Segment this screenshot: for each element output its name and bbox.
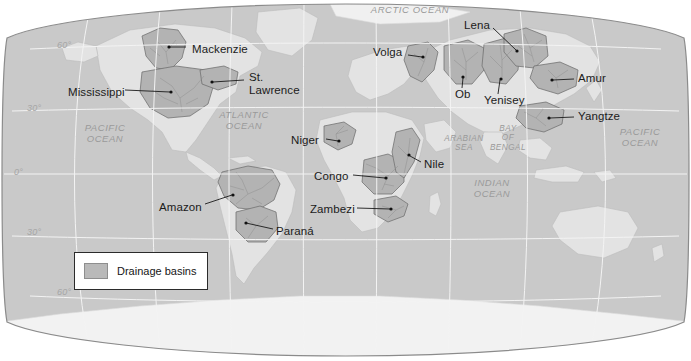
ocean-label-indian: INDIAN OCEAN [456, 178, 528, 200]
basin-label-lena: Lena [464, 19, 490, 31]
basin-label-niger: Niger [291, 134, 319, 146]
basin-label-congo: Congo [314, 170, 348, 182]
lat-label-60n: 60° [57, 40, 71, 50]
basin-label-yenisey: Yenisey [484, 94, 525, 106]
basin-label-yangtze: Yangtze [578, 110, 620, 122]
lat-label-30n: 30° [27, 103, 41, 113]
basin-label-st-lawrence: St. Lawrence [249, 71, 300, 97]
basin-label-parana: Paraná [276, 225, 314, 237]
basin-label-nile: Nile [424, 158, 444, 170]
basin-label-mississippi: Mississippi [68, 86, 125, 98]
ocean-label-pacific-west: PACIFIC OCEAN [66, 123, 144, 145]
basin-label-volga: Volga [373, 46, 402, 58]
world-drainage-basins-map: Mackenzie Mississippi St. Lawrence Amazo… [0, 0, 691, 361]
basin-label-mackenzie: Mackenzie [192, 43, 248, 55]
lat-label-30s: 30° [27, 227, 41, 237]
ocean-label-pacific-east: PACIFIC OCEAN [601, 127, 679, 149]
basin-label-ob: Ob [455, 88, 471, 100]
lat-label-0: 0° [14, 167, 23, 177]
ocean-label-arctic: ARCTIC OCEAN [355, 5, 465, 16]
legend-label-drainage-basins: Drainage basins [117, 265, 197, 277]
ocean-label-bay-of-bengal: BAY OF BENGAL [482, 124, 534, 152]
legend-row-drainage-basins: Drainage basins [75, 253, 207, 289]
legend-swatch-drainage-basins [84, 263, 108, 279]
basin-label-amazon: Amazon [159, 201, 202, 213]
ocean-label-atlantic: ATLANTIC OCEAN [205, 110, 283, 132]
map-legend: Drainage basins [74, 252, 208, 290]
basin-label-zambezi: Zambezi [310, 203, 355, 215]
basin-label-amur: Amur [578, 72, 606, 84]
lat-label-60s: 60° [57, 287, 71, 297]
